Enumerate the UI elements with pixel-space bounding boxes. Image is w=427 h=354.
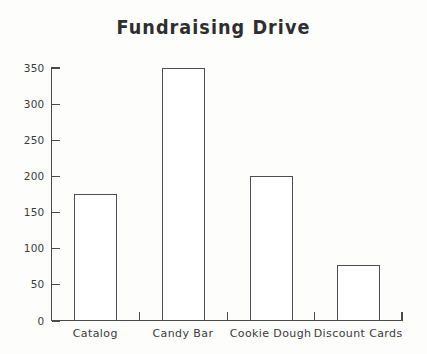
x-axis-labels: CatalogCandy BarCookie DoughDiscount Car… <box>73 327 403 340</box>
bar-candy-bar <box>163 69 205 321</box>
y-tick-label: 250 <box>24 134 45 146</box>
bar-series <box>75 69 380 321</box>
bar-chart-plot: 050100150200250300350 CatalogCandy BarCo… <box>0 0 427 354</box>
bar-cookie-dough <box>251 177 293 321</box>
y-tick-label: 150 <box>24 206 45 218</box>
y-tick-label: 100 <box>24 242 45 254</box>
y-tick-label: 300 <box>24 98 45 110</box>
bar-discount-cards <box>338 266 380 321</box>
y-tick-label: 0 <box>38 315 45 327</box>
y-tick-label: 50 <box>31 278 45 290</box>
bar-catalog <box>75 195 117 321</box>
x-tick-label: Candy Bar <box>153 327 214 340</box>
x-tick-label: Catalog <box>73 327 118 340</box>
y-axis-ticks: 050100150200250300350 <box>24 62 60 327</box>
x-tick-label: Cookie Dough <box>230 327 312 340</box>
x-tick-label: Discount Cards <box>314 327 403 340</box>
y-tick-label: 200 <box>24 170 45 182</box>
y-tick-label: 350 <box>24 62 45 74</box>
chart-figure: Fundraising Drive 050100150200250300350 … <box>0 0 427 354</box>
